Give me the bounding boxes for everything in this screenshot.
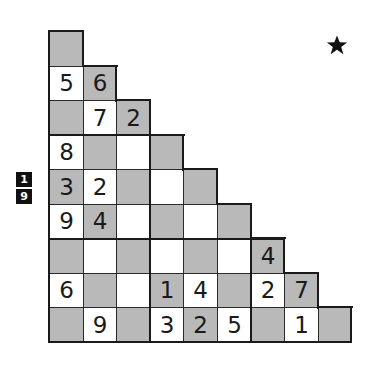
puzzle-cell[interactable]: [83, 135, 117, 170]
board-outline-step-top: [48, 30, 84, 32]
puzzle-cell[interactable]: [150, 135, 184, 170]
board-outline-left: [48, 31, 50, 343]
puzzle-cell[interactable]: [116, 273, 151, 308]
board-outline-step-right: [115, 65, 117, 102]
puzzle-cell[interactable]: [217, 238, 252, 274]
puzzle-cell[interactable]: [183, 169, 218, 205]
board-outline-step-right: [317, 272, 319, 309]
puzzle-cell[interactable]: 6: [49, 273, 84, 308]
puzzle-cell[interactable]: [83, 238, 117, 274]
board-outline-step-top: [182, 168, 218, 170]
board-outline-step-top: [82, 65, 118, 67]
puzzle-cell[interactable]: [116, 204, 151, 239]
puzzle-cell[interactable]: [49, 31, 84, 67]
board-outline-step-top: [250, 237, 286, 239]
puzzle-cell[interactable]: 2: [183, 307, 218, 343]
puzzle-cell[interactable]: 2: [251, 273, 285, 308]
puzzle-cell[interactable]: [49, 238, 84, 274]
board-outline-step-right: [182, 134, 184, 171]
puzzle-cell[interactable]: 2: [83, 169, 117, 205]
star-icon: [326, 34, 348, 56]
puzzle-cell[interactable]: [251, 307, 285, 343]
board-outline-step-right: [350, 306, 352, 343]
puzzle-cell[interactable]: 2: [116, 100, 151, 136]
puzzle-cell[interactable]: [150, 204, 184, 239]
puzzle-cell[interactable]: [150, 169, 184, 205]
board-outline-step-right: [149, 99, 151, 136]
puzzle-cell[interactable]: [116, 169, 151, 205]
puzzle-cell[interactable]: 6: [83, 66, 117, 101]
puzzle-cell[interactable]: 7: [284, 273, 319, 308]
puzzle-cell[interactable]: [83, 273, 117, 308]
puzzle-cell[interactable]: 9: [49, 204, 84, 239]
board-outline-step-right: [250, 203, 252, 240]
staircase-puzzle-board: 56728329446142793251: [0, 0, 372, 375]
board-outline-step-top: [317, 306, 353, 308]
puzzle-cell[interactable]: 1: [150, 273, 184, 308]
puzzle-cell[interactable]: 9: [83, 307, 117, 343]
puzzle-cell[interactable]: 5: [217, 307, 252, 343]
puzzle-cell[interactable]: 7: [83, 100, 117, 136]
puzzle-cell[interactable]: [183, 238, 218, 274]
board-outline-step-top: [283, 272, 319, 274]
board-outline-step-top: [115, 99, 151, 101]
badge-bottom: 9: [16, 189, 32, 204]
puzzle-cell[interactable]: 8: [49, 135, 84, 170]
puzzle-cell[interactable]: 4: [251, 238, 285, 274]
puzzle-cell[interactable]: [183, 204, 218, 239]
block-divider-vertical: [149, 100, 151, 343]
board-outline-bottom: [48, 341, 352, 343]
board-outline-step-top: [216, 203, 252, 205]
board-outline-step-top: [149, 134, 185, 136]
puzzle-cell[interactable]: [150, 238, 184, 274]
board-outline-step-right: [82, 30, 84, 67]
puzzle-cell[interactable]: [116, 238, 151, 274]
puzzle-cell[interactable]: [217, 273, 252, 308]
puzzle-cell[interactable]: 3: [150, 307, 184, 343]
board-outline-step-right: [216, 168, 218, 205]
puzzle-cell[interactable]: [116, 307, 151, 343]
badge-divider: [16, 187, 32, 188]
puzzle-cell[interactable]: [318, 307, 352, 343]
board-outline-step-right: [283, 237, 285, 274]
puzzle-cell[interactable]: 4: [83, 204, 117, 239]
puzzle-cell[interactable]: 4: [183, 273, 218, 308]
puzzle-cell[interactable]: 1: [284, 307, 319, 343]
puzzle-cell[interactable]: [49, 100, 84, 136]
puzzle-cell[interactable]: [116, 135, 151, 170]
puzzle-cell[interactable]: [217, 204, 252, 239]
puzzle-cell[interactable]: 5: [49, 66, 84, 101]
badge-top: 1: [16, 172, 32, 187]
puzzle-cell[interactable]: 3: [49, 169, 84, 205]
puzzle-cell[interactable]: [49, 307, 84, 343]
